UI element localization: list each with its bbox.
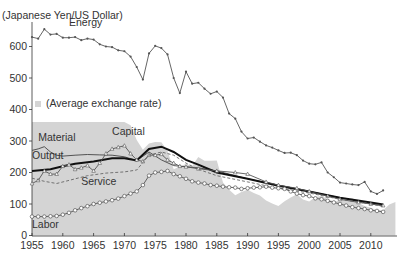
line-chart: 0100200300400500600 19551960196519701975… <box>0 0 400 259</box>
x-tick-label: 1985 <box>205 239 229 251</box>
x-tick-label: 2010 <box>359 239 383 251</box>
y-tick-label: 400 <box>9 103 27 115</box>
legend-swatch <box>35 101 41 107</box>
x-tick-label: 1990 <box>236 239 260 251</box>
x-tick-label: 1965 <box>82 239 106 251</box>
y-tick-label: 200 <box>9 166 27 178</box>
label-service: Service <box>81 175 116 187</box>
legend: (Average exchange rate) <box>35 97 161 109</box>
y-tick-labels: 0100200300400500600 <box>9 40 32 241</box>
x-tick-label: 1970 <box>113 239 137 251</box>
y-tick-label: 500 <box>9 72 27 84</box>
x-tick-label: 2005 <box>328 239 352 251</box>
label-output: Output <box>32 149 64 161</box>
x-tick-label: 2000 <box>298 239 322 251</box>
legend-label: (Average exchange rate) <box>46 97 161 109</box>
y-tick-label: 300 <box>9 135 27 147</box>
label-labor: Labor <box>32 218 59 230</box>
chart-svg: 0100200300400500600 19551960196519701975… <box>0 0 400 259</box>
y-tick-label: 600 <box>9 40 27 52</box>
x-tick-label: 1995 <box>267 239 291 251</box>
label-material: Material <box>38 131 75 143</box>
label-energy: Energy <box>69 16 103 28</box>
x-tick-label: 1955 <box>20 239 44 251</box>
label-capital: Capital <box>112 125 145 137</box>
x-tick-label: 1975 <box>144 239 168 251</box>
x-tick-label: 1980 <box>174 239 198 251</box>
x-tick-label: 1960 <box>51 239 75 251</box>
y-tick-label: 100 <box>9 198 27 210</box>
y-axis-label: (Japanese Yen/US Dollar) <box>2 9 123 21</box>
